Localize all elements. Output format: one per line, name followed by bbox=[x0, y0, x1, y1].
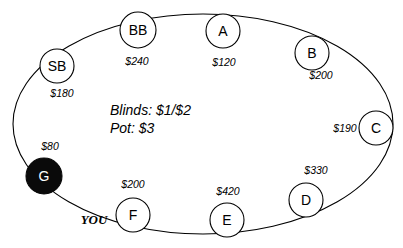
seat-c[interactable]: C $190 bbox=[332, 111, 393, 145]
stack-label-d: $330 bbox=[303, 164, 328, 176]
table-svg: SB $180 BB $240 A $120 B $200 C $190 D $… bbox=[0, 0, 403, 248]
poker-table-diagram: SB $180 BB $240 A $120 B $200 C $190 D $… bbox=[0, 0, 403, 248]
stack-label-g: $80 bbox=[40, 140, 59, 152]
stack-label-e: $420 bbox=[215, 185, 240, 197]
seat-label-g: G bbox=[39, 168, 50, 184]
seat-d[interactable]: D $330 bbox=[289, 164, 328, 217]
seat-e[interactable]: E $420 bbox=[210, 185, 244, 237]
seat-label-d: D bbox=[301, 192, 311, 208]
blinds-text: Blinds: $1/$2 bbox=[110, 102, 191, 118]
seat-label-b: B bbox=[307, 45, 316, 61]
seat-label-bb: BB bbox=[129, 22, 148, 38]
pot-text: Pot: $3 bbox=[110, 120, 155, 136]
seat-label-e: E bbox=[222, 212, 231, 228]
hero-you-marker: YOU bbox=[81, 212, 108, 227]
stack-label-sb: $180 bbox=[49, 87, 74, 99]
seat-b[interactable]: B $200 bbox=[295, 36, 333, 81]
stack-label-bb: $240 bbox=[124, 55, 149, 67]
stack-label-c: $190 bbox=[332, 122, 357, 134]
seat-bb[interactable]: BB $240 bbox=[120, 12, 156, 67]
seat-label-c: C bbox=[371, 120, 381, 136]
seat-a[interactable]: A $120 bbox=[206, 14, 240, 68]
stack-label-b: $200 bbox=[308, 69, 333, 81]
seat-label-f: F bbox=[129, 207, 138, 223]
seat-g-dealer[interactable]: G $80 bbox=[26, 140, 62, 194]
seat-sb[interactable]: SB $180 bbox=[40, 49, 74, 99]
stack-label-a: $120 bbox=[211, 56, 236, 68]
seat-f[interactable]: F $200 bbox=[116, 178, 150, 232]
seat-label-sb: SB bbox=[48, 58, 67, 74]
seat-label-a: A bbox=[218, 23, 228, 39]
stack-label-f: $200 bbox=[120, 178, 145, 190]
